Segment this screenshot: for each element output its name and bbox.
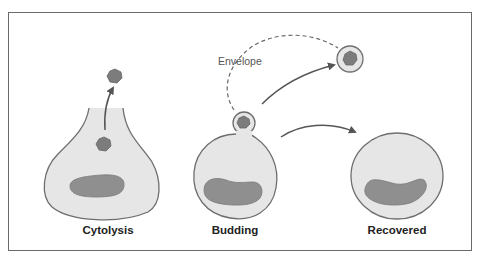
cytolysis-cell [44, 108, 159, 220]
cytolysis-nucleus [70, 175, 124, 197]
envelope-label: Envelope [218, 55, 262, 67]
recovered-label: Recovered [368, 224, 427, 236]
recovery-arrow-icon [281, 125, 355, 137]
budding-cell [194, 134, 277, 219]
budding-label: Budding [212, 224, 259, 236]
released-virus-icon [107, 69, 122, 83]
budding-nucleus [204, 178, 262, 205]
envelope-release-arrow-icon [262, 65, 334, 104]
envelope-dashed-path-icon [227, 35, 338, 110]
cytolysis-label: Cytolysis [82, 224, 133, 236]
recovered-cell [351, 133, 443, 219]
enveloped-virus-icon [337, 46, 363, 72]
